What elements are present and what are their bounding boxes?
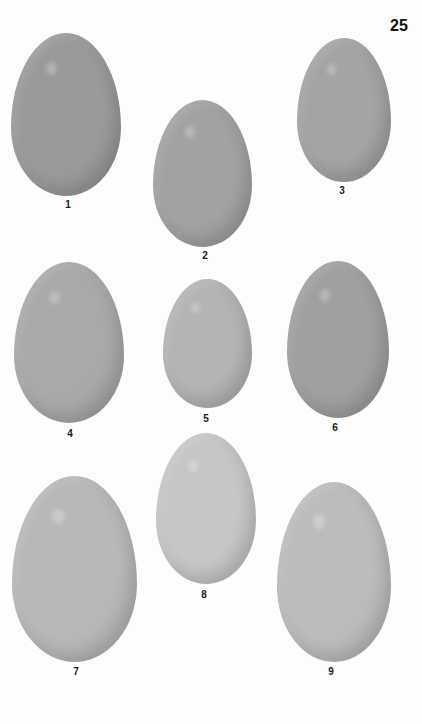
egg-label: 3 <box>332 185 352 196</box>
egg-image-7 <box>12 476 137 662</box>
egg-image-4 <box>14 262 124 423</box>
egg-image-9 <box>277 482 391 662</box>
page-number: 25 <box>390 17 408 35</box>
egg-label: 8 <box>194 589 214 600</box>
egg-label: 7 <box>66 666 86 677</box>
egg-image-2 <box>153 100 252 247</box>
egg-image-8 <box>156 433 256 584</box>
egg-image-5 <box>163 279 252 408</box>
egg-label: 4 <box>60 428 80 439</box>
egg-image-1 <box>11 33 121 196</box>
egg-label: 6 <box>325 422 345 433</box>
egg-image-3 <box>297 38 391 182</box>
egg-label: 2 <box>195 250 215 261</box>
egg-label: 5 <box>196 413 216 424</box>
egg-image-6 <box>287 261 389 418</box>
egg-label: 1 <box>58 199 78 210</box>
egg-label: 9 <box>321 666 341 677</box>
